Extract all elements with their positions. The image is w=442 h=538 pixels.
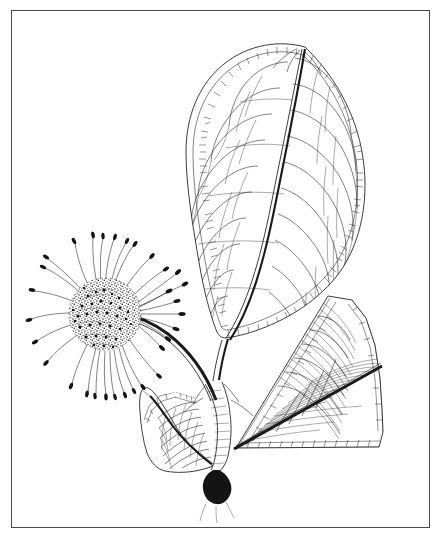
lower-left-leaf bbox=[140, 388, 214, 475]
stem-node bbox=[184, 382, 253, 523]
lower-right-leaf bbox=[234, 296, 383, 449]
capitulum bbox=[25, 231, 189, 400]
lower-left-midrib bbox=[150, 396, 212, 464]
main-leaf-midrib-left bbox=[226, 49, 302, 338]
main-leaf-secondaries-right bbox=[269, 58, 357, 352]
main-leaf-marginal-areoles bbox=[199, 47, 363, 338]
receptacle-head bbox=[69, 278, 141, 350]
main-leaf bbox=[186, 44, 365, 381]
botanical-drawing bbox=[0, 0, 442, 538]
illustration-plate bbox=[0, 0, 442, 538]
